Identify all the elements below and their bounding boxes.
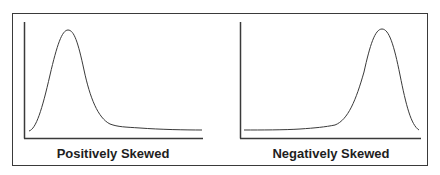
negative-skew-curve [244, 29, 419, 130]
negative-skew-label: Negatively Skewed [231, 146, 431, 161]
positive-skew-plot [24, 22, 203, 139]
negative-skew-plot [240, 22, 421, 139]
positive-skew-label: Positively Skewed [13, 146, 213, 161]
positive-skew-curve [29, 30, 202, 131]
